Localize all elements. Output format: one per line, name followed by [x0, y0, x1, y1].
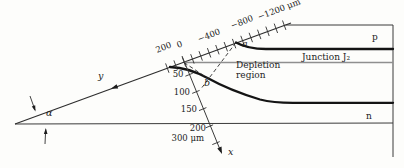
- alpha-angle-label: α: [46, 107, 53, 118]
- depth-axis-labels: 50 100 150 200 300 μm: [171, 69, 206, 143]
- depth-tick-label-200: 200: [190, 123, 206, 133]
- alpha-angle-indicators: [30, 96, 48, 144]
- n-region-label: n: [366, 111, 372, 121]
- alpha-upper-arrowhead-icon: [32, 105, 36, 111]
- bevel-tick-label-neg1200um: −1200 μm: [256, 0, 302, 22]
- bevel-tick-label-neg400: −400: [196, 26, 221, 44]
- bevel-tick-label-0: 0: [175, 39, 184, 50]
- beveled-junction-figure: 200 0 −400 −800 −1200 μm 50 100 150 200 …: [0, 0, 404, 168]
- depth-tick-label-300um: 300 μm: [171, 133, 204, 143]
- junction-diagram-canvas: 200 0 −400 −800 −1200 μm 50 100 150 200 …: [0, 0, 404, 168]
- x-axis-label: x: [228, 146, 234, 157]
- device-outline: [15, 23, 393, 157]
- x-axis-arrowhead-icon: [217, 147, 222, 154]
- y-axis-label: y: [97, 70, 104, 81]
- depth-tick-label-50: 50: [173, 69, 184, 79]
- depletion-region-label-line1: Depletion: [236, 60, 280, 70]
- depletion-upper-boundary: [236, 43, 393, 50]
- point-a-label: a: [242, 38, 248, 49]
- point-b-label: b: [204, 77, 210, 88]
- junction-j2-label: Junction J₂: [301, 52, 350, 62]
- alpha-lower-arrowhead-icon: [44, 128, 48, 134]
- p-region-label: p: [372, 32, 378, 42]
- bevel-tick-label-200: 200: [154, 40, 173, 55]
- depth-tick-label-100: 100: [174, 87, 190, 97]
- depletion-region-label-line2: region: [236, 70, 266, 80]
- y-axis-arrowhead-icon: [111, 84, 118, 89]
- bevel-tick-label-neg800: −800: [229, 13, 254, 31]
- depth-tick-label-150: 150: [181, 104, 197, 114]
